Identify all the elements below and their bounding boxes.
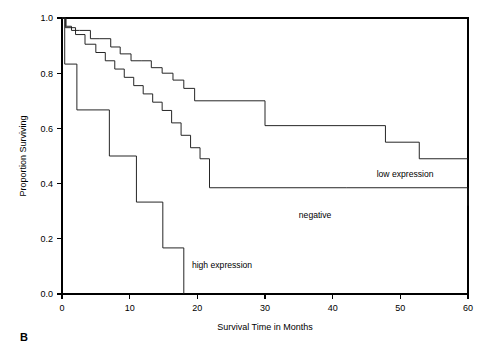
curve-label-low-expression: low expression — [377, 169, 434, 179]
y-axis-ticks — [57, 18, 62, 294]
y-tick-label-4: 0.8 — [40, 69, 53, 79]
x-axis-ticks — [62, 294, 468, 299]
curve-label-negative: negative — [299, 210, 332, 220]
x-tick-label-2: 20 — [192, 303, 202, 313]
x-tick-label-1: 10 — [125, 303, 135, 313]
x-tick-label-5: 50 — [395, 303, 405, 313]
panel-label: B — [20, 331, 28, 343]
y-tick-label-0: 0.0 — [40, 289, 53, 299]
figure-panel-b: 0.00.20.40.60.81.0 0102030405060 low exp… — [0, 0, 487, 349]
x-tick-label-3: 30 — [260, 303, 270, 313]
x-tick-label-4: 40 — [328, 303, 338, 313]
curve-annotations: low expressionnegativehigh expression — [192, 169, 434, 270]
survival-chart: 0.00.20.40.60.81.0 0102030405060 low exp… — [0, 0, 487, 349]
curve-low-expression — [62, 18, 468, 159]
y-tick-label-2: 0.4 — [40, 179, 53, 189]
y-tick-label-3: 0.6 — [40, 124, 53, 134]
curve-high-expression — [62, 18, 184, 294]
y-axis-tick-labels: 0.00.20.40.60.81.0 — [40, 13, 53, 299]
y-axis-title: Proportion Surviving — [18, 115, 28, 196]
curve-label-high-expression: high expression — [192, 260, 252, 270]
y-tick-label-1: 0.2 — [40, 234, 53, 244]
survival-curves — [62, 18, 468, 294]
x-tick-label-6: 60 — [463, 303, 473, 313]
y-tick-label-5: 1.0 — [40, 13, 53, 23]
x-axis-title: Survival Time in Months — [217, 322, 313, 332]
x-tick-label-0: 0 — [59, 303, 64, 313]
x-axis-tick-labels: 0102030405060 — [59, 303, 473, 313]
